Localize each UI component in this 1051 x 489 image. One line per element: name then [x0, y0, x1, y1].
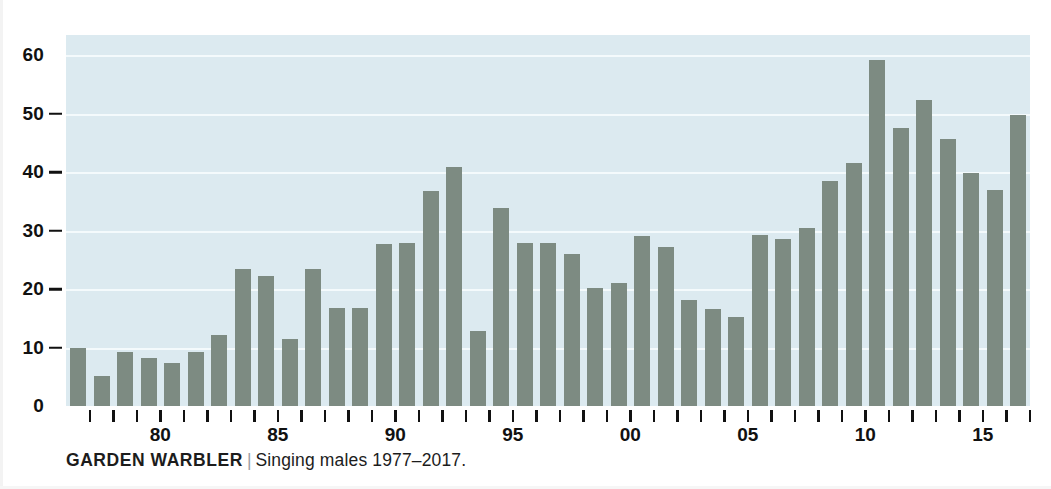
x-tick-mark	[465, 410, 468, 422]
bar	[822, 181, 838, 406]
bar	[117, 352, 133, 406]
x-tick-mark	[770, 410, 773, 422]
chart-caption: GARDEN WARBLER|Singing males 1977–2017.	[66, 450, 466, 471]
bar	[211, 335, 227, 406]
bar	[470, 331, 486, 406]
y-tick-label-60: 60	[4, 44, 44, 66]
bar	[376, 244, 392, 406]
x-tick-mark	[958, 410, 961, 422]
x-tick-mark	[653, 410, 656, 422]
bar	[846, 163, 862, 406]
bar	[493, 208, 509, 406]
bar-series	[66, 35, 1030, 406]
x-tick-mark	[535, 410, 538, 422]
bar	[188, 352, 204, 406]
bar	[587, 288, 603, 406]
x-tick-mark	[418, 410, 421, 422]
x-tick-mark	[747, 410, 750, 422]
y-tick-label-0: 0	[4, 395, 44, 417]
x-tick-label-85: 85	[253, 424, 303, 446]
y-tick-label-30: 30	[4, 220, 44, 242]
caption-separator: |	[243, 450, 256, 470]
y-tick-mark-30	[49, 229, 62, 232]
caption-description: Singing males 1977–2017.	[255, 450, 466, 470]
x-tick-label-80: 80	[135, 424, 185, 446]
x-tick-mark	[512, 410, 515, 422]
x-tick-mark	[394, 410, 397, 422]
x-tick-mark	[136, 410, 139, 422]
bar	[634, 236, 650, 406]
x-tick-label-95: 95	[488, 424, 538, 446]
x-tick-mark	[347, 410, 350, 422]
x-tick-mark	[982, 410, 985, 422]
bar	[799, 228, 815, 406]
x-tick-mark	[864, 410, 867, 422]
bar	[329, 308, 345, 406]
bar	[164, 363, 180, 406]
x-tick-mark	[629, 410, 632, 422]
x-tick-mark	[559, 410, 562, 422]
y-tick-mark-50	[49, 112, 62, 115]
bar	[70, 348, 86, 407]
bar	[658, 247, 674, 406]
bar	[611, 283, 627, 406]
y-tick-mark-10	[49, 346, 62, 349]
x-tick-mark	[112, 410, 115, 422]
x-tick-mark	[1005, 410, 1008, 422]
bar	[282, 339, 298, 406]
bar	[258, 276, 274, 406]
x-tick-mark	[700, 410, 703, 422]
bar	[728, 317, 744, 407]
x-axis: 8085909500051015	[66, 406, 1030, 446]
bar	[517, 243, 533, 406]
bar	[705, 309, 721, 406]
y-axis: 0102030405060	[0, 0, 66, 420]
bar	[235, 269, 251, 406]
x-tick-mark	[89, 410, 92, 422]
x-tick-mark	[230, 410, 233, 422]
bar	[752, 235, 768, 406]
y-tick-label-10: 10	[4, 337, 44, 359]
x-tick-label-90: 90	[370, 424, 420, 446]
x-tick-mark	[206, 410, 209, 422]
y-tick-label-20: 20	[4, 278, 44, 300]
x-tick-mark	[911, 410, 914, 422]
x-tick-mark	[371, 410, 374, 422]
bar	[94, 376, 110, 406]
bar	[305, 269, 321, 406]
x-tick-mark	[324, 410, 327, 422]
bar	[681, 300, 697, 406]
bar	[940, 139, 956, 406]
x-tick-mark	[888, 410, 891, 422]
y-tick-label-40: 40	[4, 161, 44, 183]
chart-figure: 0102030405060 8085909500051015 GARDEN WA…	[0, 0, 1051, 489]
bar	[893, 128, 909, 406]
y-tick-mark-40	[49, 171, 62, 174]
bar	[987, 190, 1003, 406]
y-tick-mark-20	[49, 288, 62, 291]
x-tick-label-15: 15	[958, 424, 1008, 446]
x-tick-label-10: 10	[840, 424, 890, 446]
bar	[352, 308, 368, 406]
x-tick-mark	[841, 410, 844, 422]
x-tick-mark	[794, 410, 797, 422]
bar	[963, 173, 979, 406]
x-tick-mark	[159, 410, 162, 422]
bar	[423, 191, 439, 406]
x-tick-label-05: 05	[723, 424, 773, 446]
bar	[141, 358, 157, 406]
x-tick-mark	[183, 410, 186, 422]
x-tick-mark	[817, 410, 820, 422]
x-tick-mark	[606, 410, 609, 422]
x-tick-mark	[441, 410, 444, 422]
x-tick-mark	[582, 410, 585, 422]
x-tick-mark	[723, 410, 726, 422]
x-tick-label-00: 00	[605, 424, 655, 446]
bar	[564, 254, 580, 406]
bar	[540, 243, 556, 406]
bar	[775, 239, 791, 406]
x-tick-mark	[300, 410, 303, 422]
plot-area	[66, 35, 1030, 406]
y-tick-label-50: 50	[4, 103, 44, 125]
bar	[446, 167, 462, 406]
